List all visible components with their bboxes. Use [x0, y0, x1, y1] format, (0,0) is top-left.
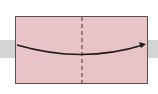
- fold-arrow-curve: [17, 45, 143, 55]
- fold-diagram-overlay: [0, 0, 158, 94]
- arrow-head-icon: [139, 42, 146, 48]
